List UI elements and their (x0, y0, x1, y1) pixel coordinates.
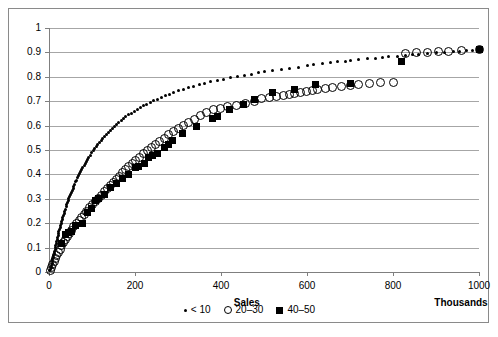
x-tick-mark (479, 272, 480, 276)
data-point (68, 228, 75, 235)
data-point (132, 164, 139, 171)
y-tick-label: 0.6 (9, 121, 41, 131)
y-tick-label: 0.7 (9, 96, 41, 106)
data-point (251, 96, 258, 103)
data-point (72, 222, 79, 229)
y-tick-label: 0.1 (9, 243, 41, 253)
data-point (107, 184, 114, 191)
data-point (145, 154, 152, 161)
legend-entry-2[interactable]: 20–30 (224, 305, 264, 315)
data-point (95, 195, 102, 202)
x-axis-line (49, 272, 479, 273)
data-point (65, 229, 72, 236)
y-tick-label: 0.2 (9, 218, 41, 228)
data-point (154, 150, 161, 157)
data-point (209, 115, 216, 122)
y-tick-label: 0.3 (9, 194, 41, 204)
legend-label: < 10 (191, 305, 211, 315)
data-point (214, 113, 221, 120)
chart-frame: 00.10.20.30.40.50.60.70.80.91 0200400600… (8, 8, 489, 323)
data-point (398, 58, 405, 65)
data-point (58, 240, 65, 247)
data-point (141, 160, 148, 167)
plot-area (49, 28, 479, 272)
y-tick-label: 0.5 (9, 145, 41, 155)
legend-label: 20–30 (236, 305, 264, 315)
data-point (149, 152, 156, 159)
data-point (269, 89, 276, 96)
y-tick-label: 0.4 (9, 169, 41, 179)
y-tick-label: 0.8 (9, 72, 41, 82)
data-point (312, 81, 319, 88)
legend-entry-3[interactable]: 40–50 (276, 305, 315, 315)
legend-marker-filled-square-icon (276, 307, 283, 314)
data-point (169, 137, 176, 144)
data-point (84, 209, 91, 216)
y-tick-label: 1 (9, 23, 41, 33)
legend-marker-open-circle-icon (224, 306, 232, 314)
data-point (179, 130, 186, 137)
data-point (135, 163, 142, 170)
data-point (476, 46, 483, 53)
data-point (226, 106, 233, 113)
legend-marker-small-dot-icon (184, 309, 187, 312)
data-point (88, 205, 95, 212)
data-point (291, 86, 298, 93)
series-3 (49, 28, 479, 272)
legend-label: 40–50 (287, 305, 315, 315)
x-tick-label: 1000 (468, 281, 490, 291)
data-point (62, 231, 69, 238)
data-point (347, 80, 354, 87)
data-point (119, 175, 126, 182)
data-point (165, 141, 172, 148)
data-point (125, 171, 132, 178)
data-point (113, 180, 120, 187)
legend-entry-1[interactable]: < 10 (184, 305, 211, 315)
screenshot-root: 00.10.20.30.40.50.60.70.80.91 0200400600… (0, 0, 498, 337)
x-tick-label: 400 (213, 281, 230, 291)
series-layer (49, 28, 479, 272)
y-tick-label: 0 (9, 267, 41, 277)
data-point (240, 101, 247, 108)
x-tick-label: 200 (127, 281, 144, 291)
data-point (193, 123, 200, 130)
x-tick-label: 800 (385, 281, 402, 291)
data-point (92, 197, 99, 204)
chart-legend: < 1020–3040–50 (9, 305, 490, 315)
y-tick-label: 0.9 (9, 47, 41, 57)
x-tick-label: 600 (299, 281, 316, 291)
data-point (79, 220, 86, 227)
data-point (161, 144, 168, 151)
data-point (101, 191, 108, 198)
x-tick-label: 0 (46, 281, 52, 291)
